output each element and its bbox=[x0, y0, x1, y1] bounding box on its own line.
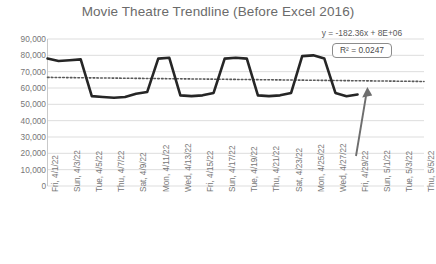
x-axis-tick-label: Sun, 4/3/22 bbox=[73, 150, 82, 192]
x-axis-tick-label: Wed, 4/13/22 bbox=[184, 143, 193, 192]
x-axis-tick-label: Fri, 4/29/22 bbox=[361, 151, 370, 192]
x-axis-tick-label: Thu, 4/7/22 bbox=[117, 151, 126, 192]
trendline-equation-text: y = -182.36x + 8E+06 bbox=[300, 28, 424, 39]
x-axis-tick-label: Tue, 5/3/22 bbox=[405, 151, 414, 192]
x-axis-tick-label: Mon, 4/11/22 bbox=[162, 145, 171, 192]
x-axis-tick-label: Sun, 5/1/22 bbox=[383, 150, 392, 192]
r-squared-value: R² = 0.0247 bbox=[332, 43, 392, 58]
x-axis-tick-label: Wed, 4/27/22 bbox=[339, 143, 348, 192]
x-axis-tick-label: Tue, 4/5/22 bbox=[95, 151, 104, 192]
x-axis-tick-label: Tue, 4/19/22 bbox=[250, 146, 259, 192]
x-axis-tick-label: Sun, 4/17/22 bbox=[228, 146, 237, 192]
chart-container: Movie Theatre Trendline (Before Excel 20… bbox=[0, 0, 436, 264]
x-axis-tick-label: Mon, 4/25/22 bbox=[317, 144, 326, 192]
x-axis-tick-label: Fri, 4/15/22 bbox=[206, 151, 215, 192]
x-axis-tick-label: Thu, 5/5/22 bbox=[427, 151, 436, 192]
x-axis-tick-label: Sat, 4/23/22 bbox=[295, 148, 304, 192]
x-axis-tick-label: Sat, 4/9/22 bbox=[139, 152, 148, 192]
x-axis-tick-label: Fri, 4/1/22 bbox=[51, 155, 60, 192]
trendline-equation-annotation: y = -182.36x + 8E+06 R² = 0.0247 bbox=[300, 28, 424, 58]
x-axis-tick-label: Thu, 4/21/22 bbox=[272, 146, 281, 192]
